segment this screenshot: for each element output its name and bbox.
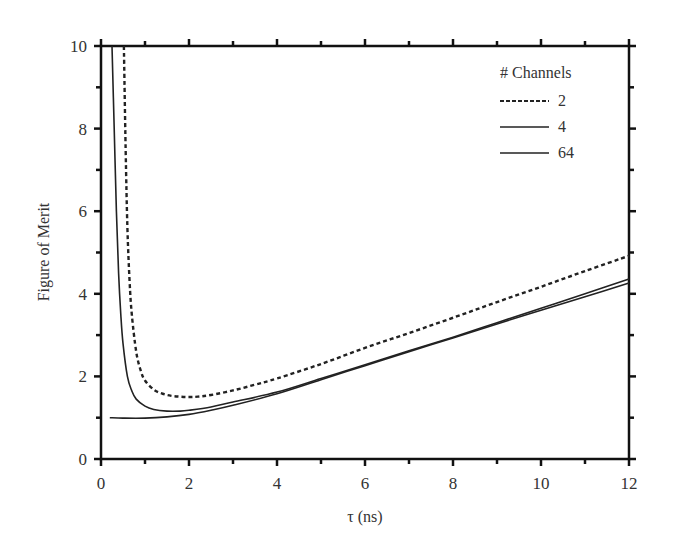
plot-frame	[101, 46, 629, 459]
x-tick-label: 0	[97, 474, 106, 493]
y-tick-label: 10	[70, 37, 87, 56]
y-tick-label: 0	[79, 450, 88, 469]
x-tick-label: 6	[361, 474, 370, 493]
y-tick-label: 6	[79, 202, 88, 221]
x-tick-label: 12	[621, 474, 638, 493]
x-tick-label: 8	[449, 474, 458, 493]
series-line-2-channels	[124, 46, 629, 397]
x-tick-label: 2	[185, 474, 194, 493]
plot-border	[101, 46, 629, 459]
tick-labels: 0246810120246810	[70, 37, 638, 493]
x-axis-label: τ (ns)	[347, 508, 382, 526]
data-series	[110, 46, 629, 418]
series-line-4-channels	[112, 46, 629, 411]
legend-title: # Channels	[500, 64, 572, 81]
y-axis-label: Figure of Merit	[35, 202, 53, 301]
y-tick-label: 2	[79, 367, 88, 386]
legend: # Channels 2464	[500, 64, 574, 161]
series-line-64-channels	[110, 283, 629, 418]
figure-of-merit-chart: 0246810120246810 τ (ns) Figure of Merit …	[0, 0, 673, 548]
legend-label-4: 4	[558, 118, 566, 135]
axis-ticks	[94, 39, 636, 466]
x-tick-label: 10	[533, 474, 550, 493]
x-tick-label: 4	[273, 474, 282, 493]
legend-label-64: 64	[558, 144, 574, 161]
y-tick-label: 4	[79, 285, 88, 304]
y-tick-label: 8	[79, 120, 88, 139]
legend-label-2: 2	[558, 92, 566, 109]
